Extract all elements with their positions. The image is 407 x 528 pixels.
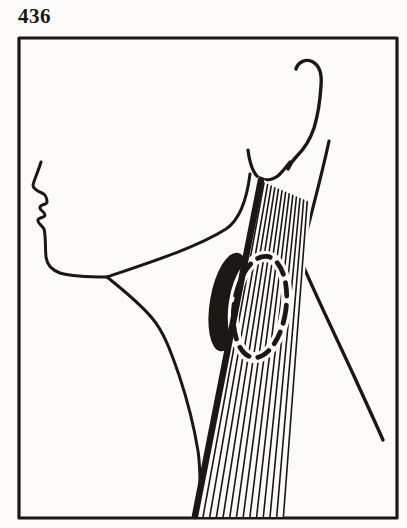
neck-front-line	[107, 277, 200, 514]
figure-ink-group	[19, 38, 397, 518]
scm-muscle	[195, 177, 311, 517]
neck-mass-anatomy-figure	[0, 0, 407, 528]
ear-helix-line	[288, 60, 321, 169]
ear-lobe-line	[248, 150, 290, 180]
page: 436	[0, 0, 407, 528]
trapezius-line	[300, 258, 383, 440]
face-profile-line	[33, 162, 107, 277]
